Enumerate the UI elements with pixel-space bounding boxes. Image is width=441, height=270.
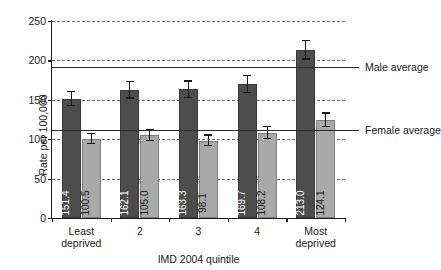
bar-group: 162.1105.0 bbox=[111, 21, 170, 218]
error-cap-top bbox=[322, 112, 330, 113]
bar-group: 169.7108.2 bbox=[228, 21, 287, 218]
error-cap-bottom bbox=[243, 92, 251, 93]
error-cap-bottom bbox=[87, 143, 95, 144]
reference-line-label: Female average bbox=[365, 124, 441, 135]
bar-value-label: 98.1 bbox=[198, 193, 208, 212]
x-category-label: 3 bbox=[196, 226, 202, 238]
x-tick-mark bbox=[286, 218, 287, 222]
bar-value-label: 163.3 bbox=[178, 190, 188, 215]
x-category-label-line: deprived bbox=[296, 238, 336, 250]
bar-value-label: 105.0 bbox=[140, 190, 150, 215]
error-cap-bottom bbox=[322, 126, 330, 127]
x-tick-mark bbox=[228, 218, 229, 222]
x-category-label: 2 bbox=[137, 226, 143, 238]
error-cap-bottom bbox=[184, 97, 192, 98]
error-bar bbox=[208, 134, 209, 146]
error-cap-top bbox=[87, 133, 95, 134]
error-cap-top bbox=[263, 126, 271, 127]
y-tick-label-200: 200 bbox=[28, 55, 46, 66]
error-cap-top bbox=[67, 91, 75, 92]
x-axis-title: IMD 2004 quintile bbox=[158, 253, 240, 265]
y-tick-label-100: 100 bbox=[28, 134, 46, 145]
bar-value-label: 213.0 bbox=[296, 190, 306, 215]
bar-male[interactable]: 213.0 bbox=[296, 50, 315, 218]
plot-area: 050100150200250 151.4100.5162.1105.0163.… bbox=[52, 21, 345, 218]
bar-female[interactable]: 100.5 bbox=[82, 139, 101, 218]
bar-group: 151.4100.5 bbox=[52, 21, 111, 218]
bar-value-label: 169.7 bbox=[237, 190, 247, 215]
bar-value-label: 124.1 bbox=[316, 190, 326, 215]
bar-value-label: 108.2 bbox=[257, 190, 267, 215]
error-bar bbox=[305, 40, 306, 59]
x-category-label: Mostdeprived bbox=[296, 226, 336, 249]
bar-male[interactable]: 163.3 bbox=[179, 89, 198, 218]
x-category-label-line: Least bbox=[61, 226, 101, 238]
error-cap-bottom bbox=[126, 97, 134, 98]
x-category-label-line: 3 bbox=[196, 226, 202, 238]
error-bar bbox=[129, 81, 130, 98]
error-cap-bottom bbox=[204, 145, 212, 146]
y-tick-label-150: 150 bbox=[28, 95, 46, 106]
bar-female[interactable]: 124.1 bbox=[316, 120, 335, 218]
error-bar bbox=[71, 91, 72, 106]
x-category-label-line: deprived bbox=[61, 238, 101, 250]
error-bar bbox=[91, 133, 92, 145]
error-cap-top bbox=[302, 40, 310, 41]
error-bar bbox=[149, 129, 150, 141]
error-cap-top bbox=[243, 75, 251, 76]
x-category-label: 4 bbox=[254, 226, 260, 238]
error-bar bbox=[247, 75, 248, 93]
x-tick-mark bbox=[111, 218, 112, 222]
error-bar bbox=[325, 112, 326, 127]
x-tick-mark bbox=[169, 218, 170, 222]
error-cap-bottom bbox=[302, 58, 310, 59]
x-category-label-line: 2 bbox=[137, 226, 143, 238]
reference-line-female bbox=[52, 130, 359, 131]
x-tick-mark bbox=[52, 218, 53, 222]
error-bar bbox=[267, 126, 268, 139]
bar-male[interactable]: 151.4 bbox=[62, 99, 81, 218]
bar-female[interactable]: 105.0 bbox=[140, 135, 159, 218]
bar-female[interactable]: 98.1 bbox=[199, 141, 218, 218]
reference-line-label: Male average bbox=[365, 62, 429, 73]
bar-male[interactable]: 162.1 bbox=[120, 90, 139, 218]
error-cap-bottom bbox=[146, 140, 154, 141]
error-cap-top bbox=[204, 134, 212, 135]
error-bar bbox=[188, 80, 189, 97]
reference-line-male bbox=[52, 67, 359, 68]
bar-male[interactable]: 169.7 bbox=[238, 84, 257, 218]
y-tick-label-50: 50 bbox=[34, 173, 46, 184]
error-cap-bottom bbox=[263, 138, 271, 139]
y-tick-label-0: 0 bbox=[40, 213, 46, 224]
x-axis-line bbox=[51, 218, 345, 219]
bar-value-label: 151.4 bbox=[61, 190, 71, 215]
bar-female[interactable]: 108.2 bbox=[258, 133, 277, 218]
error-cap-bottom bbox=[67, 105, 75, 106]
y-tick-label-250: 250 bbox=[28, 16, 46, 27]
x-category-label-line: 4 bbox=[254, 226, 260, 238]
error-cap-top bbox=[184, 80, 192, 81]
x-tick-mark bbox=[345, 218, 346, 222]
bar-value-label: 100.5 bbox=[81, 190, 91, 215]
bar-value-label: 162.1 bbox=[120, 190, 130, 215]
bar-group: 163.398.1 bbox=[169, 21, 228, 218]
bar-group: 213.0124.1 bbox=[286, 21, 345, 218]
error-cap-top bbox=[126, 81, 134, 82]
x-category-label-line: Most bbox=[296, 226, 336, 238]
x-category-label: Leastdeprived bbox=[61, 226, 101, 249]
